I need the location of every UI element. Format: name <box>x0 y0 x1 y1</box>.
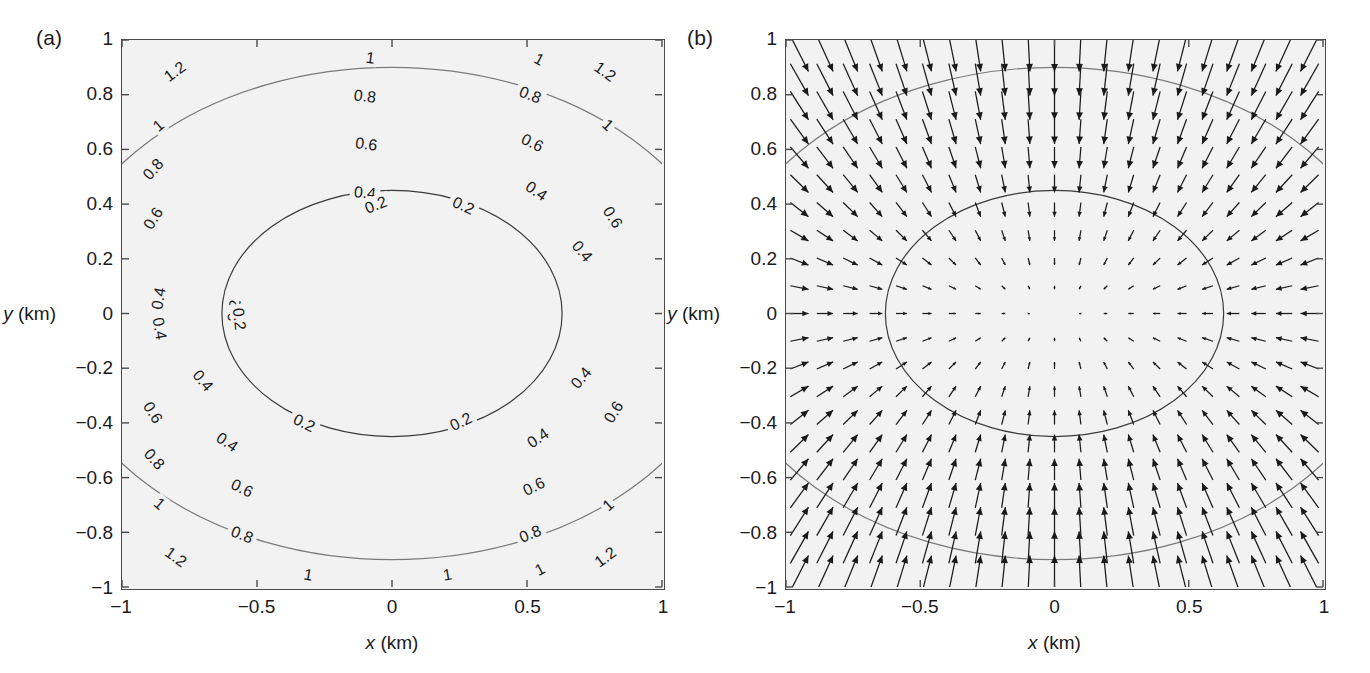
y-tick-label: 0 <box>59 303 113 325</box>
y-tick-label: −0.4 <box>723 412 777 434</box>
x-tick-label: −0.5 <box>901 596 939 618</box>
y-tick-label: −0.8 <box>59 522 113 544</box>
y-tick-label: −0.2 <box>59 357 113 379</box>
panel-b-contour-quiver-svg <box>786 40 1325 589</box>
y-tick-label: −1 <box>723 577 777 599</box>
panel-b-x-axis-title: x (km) <box>1028 632 1081 654</box>
y-tick-label: 0 <box>723 303 777 325</box>
y-axis-unit: (km) <box>682 303 720 324</box>
y-tick-label: 0.6 <box>723 138 777 160</box>
x-axis-unit: (km) <box>380 632 418 653</box>
y-tick-label: 0.8 <box>723 83 777 105</box>
x-tick-label: 1 <box>658 596 669 618</box>
panel-a-contour-plot: (a) 1.210.80.60.40.210.80.60.40.211.20.8… <box>0 0 685 673</box>
svg-text:0.6: 0.6 <box>354 134 378 154</box>
panel-b-tag: (b) <box>687 26 713 50</box>
x-tick-label: 0 <box>1049 596 1060 618</box>
y-tick-label: −0.8 <box>723 522 777 544</box>
x-axis-variable: x <box>1028 632 1038 653</box>
x-axis-variable: x <box>366 632 376 653</box>
x-axis-unit: (km) <box>1043 632 1081 653</box>
y-axis-variable: y <box>667 303 677 324</box>
panel-b-quiver-plot: (b) −1−0.500.51−1−0.8−0.6−0.4−0.200.20.4… <box>685 0 1370 673</box>
x-tick-label: 0.5 <box>514 596 540 618</box>
svg-text:0.2: 0.2 <box>230 307 249 331</box>
y-tick-label: 1 <box>723 28 777 50</box>
y-axis-unit: (km) <box>18 303 56 324</box>
x-tick-label: 0 <box>387 596 398 618</box>
x-tick-label: 0.5 <box>1176 596 1202 618</box>
y-tick-label: 0.6 <box>59 138 113 160</box>
y-axis-variable: y <box>3 303 13 324</box>
y-tick-label: −1 <box>59 577 113 599</box>
panel-a-plot-area: 1.210.80.60.40.210.80.60.40.211.20.810.6… <box>121 39 665 590</box>
y-tick-label: 0.2 <box>723 248 777 270</box>
panel-a-x-axis-title: x (km) <box>366 632 419 654</box>
y-tick-label: −0.4 <box>59 412 113 434</box>
panel-a-contour-svg: 1.210.80.60.40.210.80.60.40.211.20.810.6… <box>122 40 664 589</box>
y-tick-label: −0.6 <box>723 467 777 489</box>
svg-text:0.8: 0.8 <box>353 86 377 106</box>
panel-b-y-axis-title: y (km) <box>620 303 720 325</box>
x-tick-label: −0.5 <box>238 596 276 618</box>
y-tick-label: 0.8 <box>59 83 113 105</box>
y-tick-label: 0.4 <box>59 193 113 215</box>
y-tick-label: 1 <box>59 28 113 50</box>
panel-a-y-axis-title: y (km) <box>0 303 56 325</box>
figure-canvas: (a) 1.210.80.60.40.210.80.60.40.211.20.8… <box>0 0 1370 673</box>
x-tick-label: 1 <box>1319 596 1330 618</box>
y-tick-label: −0.2 <box>723 357 777 379</box>
x-tick-label: −1 <box>110 596 132 618</box>
y-tick-label: 0.4 <box>723 193 777 215</box>
x-tick-label: −1 <box>774 596 796 618</box>
y-tick-label: 0.2 <box>59 248 113 270</box>
y-tick-label: −0.6 <box>59 467 113 489</box>
panel-b-plot-area <box>785 39 1326 590</box>
